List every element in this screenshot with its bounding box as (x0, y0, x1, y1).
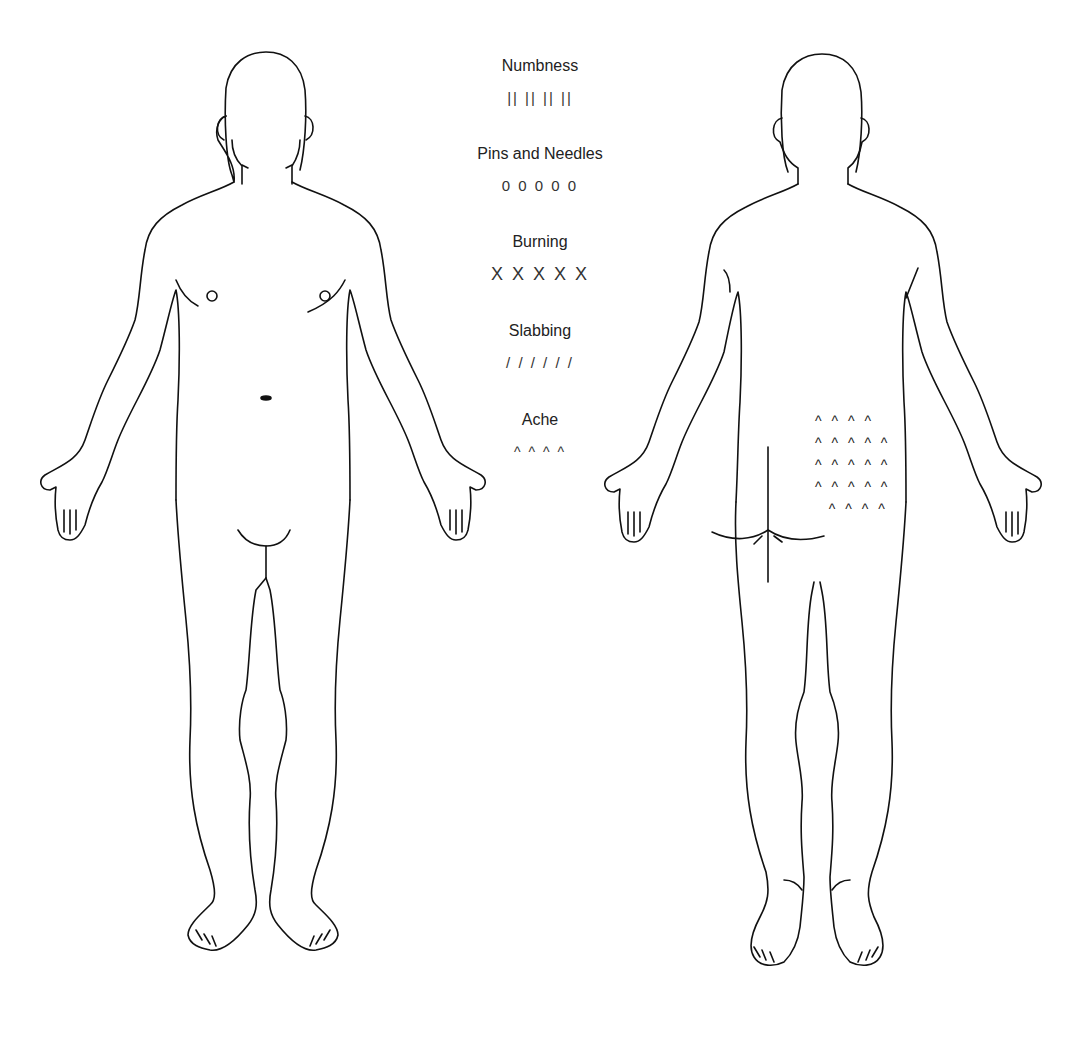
legend-label: Burning (440, 232, 640, 252)
slabbing-symbol-icon: / / / / / / (440, 353, 640, 373)
ache-row: ^ ^ ^ ^ ^ (815, 432, 915, 454)
ache-row: ^ ^ ^ ^ ^ (815, 454, 915, 476)
legend-item-ache: Ache ^ ^ ^ ^ (440, 410, 640, 462)
ache-symbol-icon: ^ ^ ^ ^ (440, 442, 640, 462)
ache-marking-region: ^ ^ ^ ^ ^ ^ ^ ^ ^ ^ ^ ^ ^ ^ ^ ^ ^ ^ ^ ^ … (815, 410, 915, 520)
front-figure (41, 52, 485, 950)
pins-needles-symbol-icon: 0 0 0 0 0 (440, 176, 640, 196)
ache-row: ^ ^ ^ ^ (815, 410, 915, 432)
legend-label: Slabbing (440, 321, 640, 341)
legend-label: Ache (440, 410, 640, 430)
numbness-symbol-icon: || || || || (440, 88, 640, 108)
legend-item-numbness: Numbness || || || || (440, 56, 640, 108)
legend-label: Pins and Needles (440, 144, 640, 164)
legend-item-burning: Burning X X X X X (440, 232, 640, 284)
legend-item-slabbing: Slabbing / / / / / / (440, 321, 640, 373)
legend-label: Numbness (440, 56, 640, 76)
burning-symbol-icon: X X X X X (440, 264, 640, 284)
legend-item-pins-and-needles: Pins and Needles 0 0 0 0 0 (440, 144, 640, 196)
ache-row: ^ ^ ^ ^ (815, 498, 915, 520)
ache-row: ^ ^ ^ ^ ^ (815, 476, 915, 498)
